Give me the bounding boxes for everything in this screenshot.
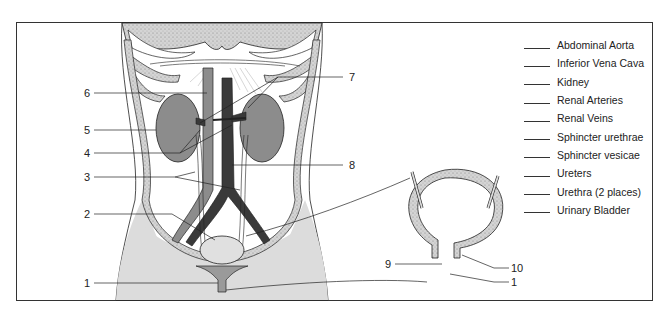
bladder-cross-section: [409, 169, 503, 258]
answer-choice: Urethra (2 places): [524, 182, 644, 200]
label-number: 6: [84, 88, 90, 99]
label-number: 10: [511, 263, 523, 274]
label-number: 7: [349, 72, 355, 83]
urinary-bladder: [200, 236, 244, 264]
answer-choice: Inferior Vena Cava: [524, 54, 644, 72]
answer-choice: Abdominal Aorta: [524, 36, 644, 54]
answer-choice: Kidney: [524, 73, 644, 91]
answer-blank[interactable]: [524, 212, 550, 213]
label-number: 9: [385, 259, 391, 270]
answer-blank[interactable]: [524, 121, 550, 122]
answer-choice: Renal Veins: [524, 109, 644, 127]
kidney-left: [156, 94, 200, 162]
label-number: 2: [84, 209, 90, 220]
label-number: 4: [84, 148, 90, 159]
answer-choice: Urinary Bladder: [524, 201, 644, 219]
answer-blank[interactable]: [524, 48, 550, 49]
label-number: 3: [84, 172, 90, 183]
answer-blank[interactable]: [524, 103, 550, 104]
answer-choice-list: Abdominal Aorta Inferior Vena Cava Kidne…: [524, 36, 644, 219]
answer-blank[interactable]: [524, 84, 550, 85]
answer-blank[interactable]: [524, 194, 550, 195]
label-number: 1: [84, 278, 90, 289]
label-number: 5: [84, 125, 90, 136]
answer-blank[interactable]: [524, 176, 550, 177]
answer-choice: Sphincter urethrae: [524, 127, 644, 145]
label-number: 8: [349, 160, 355, 171]
answer-blank[interactable]: [524, 157, 550, 158]
answer-choice: Sphincter vesicae: [524, 146, 644, 164]
answer-blank[interactable]: [524, 139, 550, 140]
answer-blank[interactable]: [524, 66, 550, 67]
answer-choice: Renal Arteries: [524, 91, 644, 109]
label-number: 1: [511, 277, 517, 288]
answer-choice: Ureters: [524, 164, 644, 182]
